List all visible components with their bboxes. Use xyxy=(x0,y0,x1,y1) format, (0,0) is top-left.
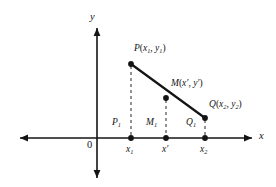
point-label-q: Q(x2, y2) xyxy=(209,100,242,110)
x-axis-left-arrowhead xyxy=(20,135,28,142)
x-axis xyxy=(20,135,252,142)
foot-point-m1-marker xyxy=(163,135,169,141)
y-axis-label: y xyxy=(90,12,95,23)
foot-label-m1-sub: 1 xyxy=(154,121,157,128)
tick-label-xprime-name: x′ xyxy=(162,144,168,154)
x-axis-label: x xyxy=(259,131,264,142)
foot-label-p1: P1 xyxy=(112,118,121,128)
y-axis-bottom-arrowhead xyxy=(94,170,101,178)
tick-label-xprime: x′ xyxy=(162,145,168,155)
origin-label: 0 xyxy=(87,140,92,151)
tick-label-x1-sub: 1 xyxy=(130,148,133,155)
foot-label-q1-name: Q xyxy=(186,117,193,127)
foot-point-p1-marker xyxy=(128,135,134,141)
foot-label-q1-sub: 1 xyxy=(193,121,196,128)
point-label-p-close: ) xyxy=(162,43,165,53)
point-q-marker xyxy=(202,115,208,121)
foot-label-m1: M1 xyxy=(146,118,157,128)
point-p-marker xyxy=(128,61,134,67)
tick-label-x2-sub: 2 xyxy=(204,148,207,155)
x-axis-right-arrowhead xyxy=(244,135,252,142)
segment-pq xyxy=(131,64,205,118)
y-axis xyxy=(94,28,101,178)
y-axis-top-arrowhead xyxy=(94,28,101,36)
point-label-m-name: M xyxy=(171,78,179,88)
point-label-p: P(x1, y1) xyxy=(134,44,166,54)
figure-canvas xyxy=(0,0,276,187)
point-label-m: M(x′, y′) xyxy=(171,79,203,89)
foot-label-q1: Q1 xyxy=(186,118,196,128)
foot-label-m1-name: M xyxy=(146,117,154,127)
point-label-m-close: ) xyxy=(199,78,202,88)
foot-label-p1-sub: 1 xyxy=(118,121,121,128)
point-label-q-close: ) xyxy=(239,99,242,109)
point-m-marker xyxy=(163,95,169,101)
point-label-q-name: Q xyxy=(209,99,216,109)
tick-label-x1: x1 xyxy=(126,145,133,155)
foot-point-q1-marker xyxy=(202,135,208,141)
coordinate-plane-figure: y x 0 P(x1, y1) M(x′, y′) Q(x2, y2) P1 M… xyxy=(0,0,276,187)
tick-label-x2: x2 xyxy=(200,145,207,155)
